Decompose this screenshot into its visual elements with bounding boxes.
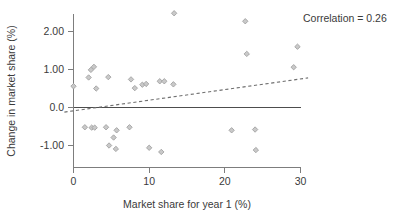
data-point (291, 65, 296, 70)
data-point (71, 84, 76, 89)
data-point (128, 77, 133, 82)
x-axis-ticks (74, 168, 301, 174)
data-point (94, 86, 99, 91)
x-tick-labels: 0 10 20 30 (71, 175, 307, 187)
x-tick-label-20: 20 (219, 175, 231, 187)
data-point (253, 147, 258, 152)
data-point (114, 128, 119, 133)
y-tick-labels: 2.00 1.00 0.0 -1.00 (40, 25, 64, 151)
data-point (103, 125, 108, 130)
scatter-plot-figure: 2.00 1.00 0.0 -1.00 0 10 20 30 Market sh… (0, 0, 407, 218)
chart-canvas: 2.00 1.00 0.0 -1.00 0 10 20 30 Market sh… (0, 0, 407, 218)
data-points-layer (71, 11, 300, 155)
y-tick-label-1: 1.00 (44, 63, 65, 75)
x-tick-label-10: 10 (143, 175, 155, 187)
x-axis-title: Market share for year 1 (%) (123, 198, 251, 210)
y-axis-title: Change in market share (%) (5, 25, 17, 156)
x-tick-label-30: 30 (295, 175, 307, 187)
data-point (295, 44, 300, 49)
data-point (146, 145, 151, 150)
data-point (86, 75, 91, 80)
y-tick-label-neg1: -1.00 (40, 139, 64, 151)
y-tick-label-2: 2.00 (44, 25, 65, 37)
data-point (106, 74, 111, 79)
data-point (113, 146, 118, 151)
y-tick-label-0: 0.0 (49, 101, 64, 113)
data-point (171, 11, 176, 16)
data-point (162, 79, 167, 84)
data-point (127, 125, 132, 130)
data-point (82, 125, 87, 130)
data-point (244, 51, 249, 56)
data-point (106, 143, 111, 148)
x-tick-label-0: 0 (71, 175, 77, 187)
data-point (132, 85, 137, 90)
data-point (159, 149, 164, 154)
data-point (252, 127, 257, 132)
plot-area (64, 11, 308, 173)
data-point (171, 82, 176, 87)
correlation-annotation: Correlation = 0.26 (303, 12, 387, 24)
data-point (229, 128, 234, 133)
data-point (243, 19, 248, 24)
data-point (111, 135, 116, 140)
